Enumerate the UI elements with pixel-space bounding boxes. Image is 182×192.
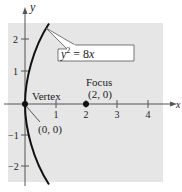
y-tick-label: 1 xyxy=(13,66,18,77)
vertex-point xyxy=(22,101,28,107)
equation-label: y2 = 8x xyxy=(60,46,95,61)
focus-point xyxy=(83,101,89,107)
y-tick-label: 2 xyxy=(13,34,18,45)
y-tick-label: −2 xyxy=(8,161,19,172)
parabola-chart: y x 1 2 3 4 2 1 −1 −2 y2 = 8x Vertex (0,… xyxy=(0,0,182,192)
focus-coord: (2, 0) xyxy=(88,88,112,101)
x-tick-label: 3 xyxy=(115,109,120,120)
x-tick-label: 4 xyxy=(146,109,151,120)
x-tick-label: 2 xyxy=(84,109,89,120)
x-axis-label: x xyxy=(175,99,181,110)
y-axis-label: y xyxy=(29,0,36,14)
x-tick-label: 1 xyxy=(54,109,59,120)
vertex-title: Vertex xyxy=(32,90,61,102)
y-tick-label: −1 xyxy=(8,130,19,141)
focus-title: Focus xyxy=(86,76,112,88)
y-axis-arrow-icon xyxy=(23,7,28,14)
vertex-coord: (0, 0) xyxy=(38,123,62,136)
